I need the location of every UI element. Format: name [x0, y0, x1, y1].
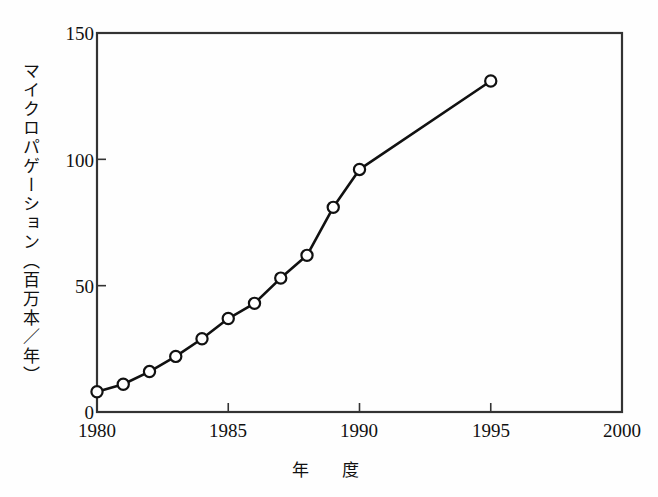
- data-point-1982: [144, 366, 155, 377]
- data-point-1989: [328, 202, 339, 213]
- series-line: [97, 81, 491, 392]
- data-point-1985: [223, 313, 234, 324]
- plot-area: [0, 0, 658, 497]
- data-point-1990: [354, 164, 365, 175]
- data-point-1988: [301, 250, 312, 261]
- data-point-1995: [485, 75, 496, 86]
- data-point-1983: [170, 351, 181, 362]
- chart-figure: マイクロパゲーション（百万本／年） 150 100 50 0 1980 1985…: [0, 0, 658, 497]
- axis-ticks: [97, 159, 491, 412]
- data-point-1981: [118, 379, 129, 390]
- data-point-1987: [275, 272, 286, 283]
- series-markers: [91, 75, 496, 397]
- data-point-1980: [91, 386, 102, 397]
- data-point-1986: [249, 298, 260, 309]
- data-point-1984: [196, 333, 207, 344]
